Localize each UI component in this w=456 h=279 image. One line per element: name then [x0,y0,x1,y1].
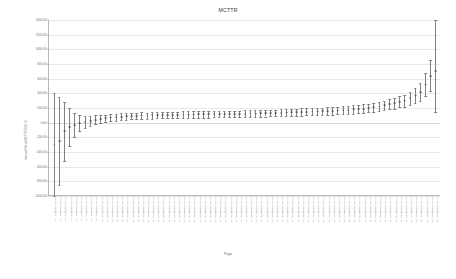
error-bar-cap [337,114,340,115]
mean-marker [275,112,277,114]
mean-marker [229,113,231,115]
error-bar-cap [280,116,283,117]
mean-marker [327,110,329,112]
error-bar-cap [347,114,350,115]
data-point [151,20,154,196]
mean-marker [223,113,225,115]
plot-area: 1400.001200.001000.00800.00600.00400.002… [48,20,440,196]
error-bar-cap [424,73,427,74]
error-bar-cap [398,107,401,108]
error-bar-cap [197,111,200,112]
data-point [429,20,432,196]
error-bar-cap [383,101,386,102]
error-bar-cap [259,117,262,118]
y-tick-label: 400.00 [37,91,46,95]
mean-marker [187,114,189,116]
error-bar-cap [269,110,272,111]
data-point [171,20,174,196]
error-bar-cap [244,117,247,118]
error-bar-cap [383,110,386,111]
error-bar-cap [275,110,278,111]
error-bar-cap [373,103,376,104]
data-point [63,20,66,196]
data-point [254,20,257,196]
error-bar-cap [316,115,319,116]
error-bar-cap [99,115,102,116]
error-bar-cap [419,83,422,84]
error-bar-cap [378,102,381,103]
error-bar-cap [187,118,190,119]
x-tick-label: part 7 assembly station [85,197,87,221]
mean-marker [53,144,55,146]
error-bar-cap [53,93,56,94]
mean-marker [84,121,86,123]
x-tick-label: part 26 assembly station [183,197,185,222]
error-bar-cap [223,117,226,118]
data-point [176,20,179,196]
y-tick-label: -1000.00 [35,194,47,198]
mean-marker [182,114,184,116]
error-bar-cap [202,111,205,112]
error-bar-cap [285,116,288,117]
error-bar-cap [151,119,154,120]
x-tick-label: part 4 assembly station [70,197,72,221]
error-bar-cap [264,117,267,118]
error-bar-cap [68,146,71,147]
data-point [125,20,128,196]
data-point [84,20,87,196]
error-bar-cap [435,112,438,113]
data-point [58,20,61,196]
data-point [419,20,422,196]
x-tick-label: part 64 assembly station [379,197,381,222]
data-point [187,20,190,196]
mean-marker [280,112,282,114]
mean-marker [198,114,200,116]
error-bar-cap [161,118,164,119]
data-point [115,20,118,196]
mean-marker [177,114,179,116]
mean-marker [414,95,416,97]
error-bar-cap [393,98,396,99]
error-bar-cap [68,108,71,109]
mean-marker [285,112,287,114]
error-bar-cap [228,111,231,112]
error-bar-cap [280,109,283,110]
mean-marker [120,116,122,118]
mean-marker [435,70,437,72]
error-bar-cap [218,117,221,118]
error-bar-cap [192,118,195,119]
x-tick-label: part 25 assembly station [178,197,180,222]
data-point [367,20,370,196]
error-bar-cap [58,97,61,98]
x-tick-label: part 68 assembly station [400,197,402,222]
data-point [73,20,76,196]
mean-marker [105,117,107,119]
x-tick-label: part 13 assembly station [116,197,118,222]
mean-marker [409,98,411,100]
error-bar-cap [171,118,174,119]
mean-marker [79,122,81,124]
error-bar-cap [342,114,345,115]
x-tick-label: part 18 assembly station [142,197,144,222]
mean-marker [306,111,308,113]
data-point [424,20,427,196]
data-point [228,20,231,196]
error-bar-cap [84,128,87,129]
x-tick-label: part 43 assembly station [271,197,273,222]
x-tick-label: part 21 assembly station [157,197,159,222]
y-tick-label: 1200.00 [36,33,47,37]
error-bar-cap [435,20,438,21]
x-tick-label: part 17 assembly station [137,197,139,222]
error-bar-cap [404,107,407,108]
x-tick-label: part 9 assembly station [95,197,97,221]
mean-marker [115,116,117,118]
y-tick-label: -200.00 [36,135,46,139]
data-point [104,20,107,196]
error-bar-cap [321,108,324,109]
data-point [223,20,226,196]
error-bar-cap [135,113,138,114]
y-tick-label: 0.00 [41,121,47,125]
y-tick-label: -400.00 [36,150,46,154]
error-bar-cap [146,113,149,114]
error-bar-cap [125,120,128,121]
